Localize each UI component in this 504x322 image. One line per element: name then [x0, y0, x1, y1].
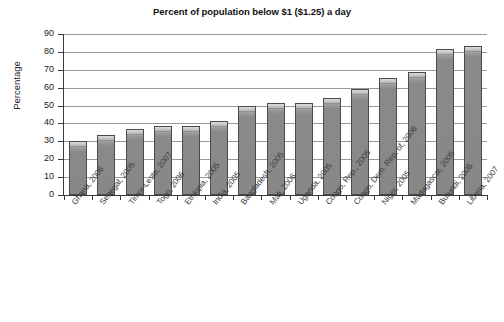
- y-tick-label: 40: [18, 118, 54, 127]
- y-tick-label: 0: [18, 190, 54, 199]
- bar: [351, 89, 369, 195]
- bar-chart-figure: Percent of population below $1 ($1.25) a…: [0, 0, 504, 322]
- y-tick-label: 20: [18, 154, 54, 163]
- x-tick-mark: [318, 195, 319, 200]
- chart-title: Percent of population below $1 ($1.25) a…: [0, 6, 504, 17]
- x-tick-mark: [64, 195, 65, 200]
- x-tick-mark: [149, 195, 150, 200]
- x-tick-mark: [346, 195, 347, 200]
- bar: [379, 78, 397, 195]
- x-tick-mark: [233, 195, 234, 200]
- x-tick-mark: [431, 195, 432, 200]
- x-tick-mark: [92, 195, 93, 200]
- y-tick-label: 80: [18, 47, 54, 56]
- x-tick-mark: [177, 195, 178, 200]
- x-tick-mark: [120, 195, 121, 200]
- y-tick-label: 70: [18, 65, 54, 74]
- y-tick-label: 50: [18, 101, 54, 110]
- bar: [323, 98, 341, 195]
- x-tick-mark: [261, 195, 262, 200]
- x-tick-mark: [374, 195, 375, 200]
- x-tick-mark: [402, 195, 403, 200]
- gridline: [64, 70, 487, 71]
- y-tick-label: 10: [18, 172, 54, 181]
- y-tick-label: 90: [18, 29, 54, 38]
- x-tick-mark: [459, 195, 460, 200]
- gridline: [64, 34, 487, 35]
- gridline: [64, 52, 487, 53]
- x-tick-mark: [205, 195, 206, 200]
- y-tick-label: 60: [18, 83, 54, 92]
- x-tick-mark: [487, 195, 488, 200]
- y-tick-label: 30: [18, 136, 54, 145]
- x-tick-mark: [290, 195, 291, 200]
